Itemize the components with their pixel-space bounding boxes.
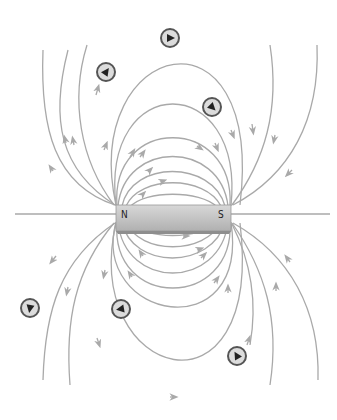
compass-icon [97,63,115,81]
magnetic-field-diagram: N S [0,0,337,420]
field-lines-canvas [0,0,337,420]
compass-icon [228,347,246,365]
south-pole-label: S [218,209,224,220]
compass-icon [112,300,130,318]
compass-icon [203,98,221,116]
north-pole-label: N [121,209,128,220]
compass-group [21,29,246,365]
bar-magnet [116,205,231,234]
compass-icon [21,299,39,317]
compass-icon [161,29,179,47]
